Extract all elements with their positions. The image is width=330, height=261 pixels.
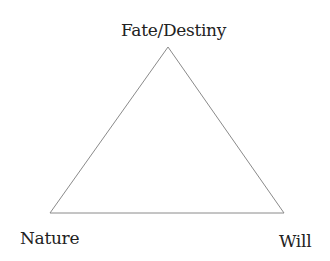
vertex-label-nature: Nature [20, 228, 79, 248]
triangle-shape [50, 47, 284, 213]
vertex-label-fate-destiny: Fate/Destiny [121, 20, 226, 40]
vertex-label-will: Will [279, 231, 311, 251]
